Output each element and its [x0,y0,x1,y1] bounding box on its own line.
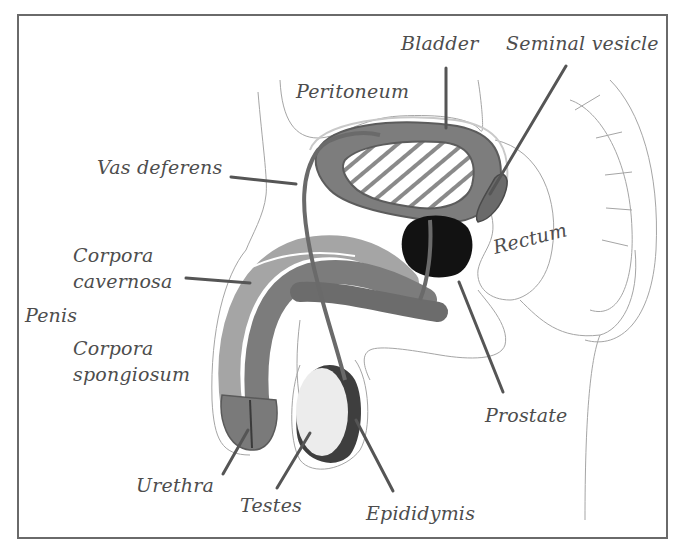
bladder-shape [310,117,507,222]
label-penis: Penis [25,304,77,326]
label-urethra: Urethra [136,474,214,496]
label-corpora-cavernosa-line1: Corpora [73,244,153,266]
label-corpora-spongiosum-line1: Corpora [73,337,153,359]
label-seminal-vesicle: Seminal vesicle [506,32,659,54]
prostate-shape [402,216,473,278]
label-peritoneum: Peritoneum [296,80,409,102]
testis-shape [296,365,361,463]
label-vas-deferens: Vas deferens [97,156,223,178]
label-corpora-cavernosa-line2: cavernosa [73,270,173,292]
label-corpora-spongiosum-line2: spongiosum [73,363,190,385]
label-bladder: Bladder [401,32,478,54]
label-prostate: Prostate [485,404,568,426]
label-testes: Testes [240,494,302,516]
label-epididymis: Epididymis [366,502,475,524]
